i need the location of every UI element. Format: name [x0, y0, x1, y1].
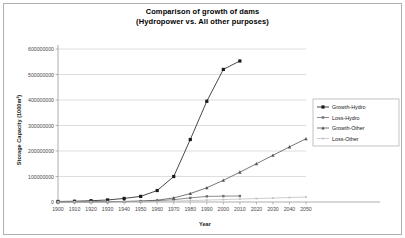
legend-label: Growth-Other [332, 125, 365, 131]
chart-container: Comparison of growth of dams (Hydropower… [0, 0, 405, 238]
y-tick-label: 100000000 [28, 174, 54, 180]
series-growth-other [56, 137, 307, 203]
data-point [107, 201, 109, 203]
data-point [305, 196, 307, 198]
series-line [58, 61, 240, 202]
data-point [57, 201, 59, 203]
data-point [271, 154, 274, 157]
data-point [321, 105, 324, 108]
data-point [156, 201, 158, 203]
plot-area: 0100000000200000000300000000400000000500… [0, 0, 405, 238]
data-point [239, 198, 241, 200]
x-axis-title: Year [199, 221, 212, 227]
x-tick-label: 1920 [85, 206, 97, 212]
data-point [206, 199, 208, 201]
y-tick-label: 500000000 [28, 72, 54, 78]
data-point [173, 200, 175, 202]
y-tick-label: 300000000 [28, 123, 54, 129]
x-tick-label: 1950 [135, 206, 147, 212]
x-tick-label: 2000 [218, 206, 230, 212]
x-tick-labels: 1900191019201930194019501960197019801990… [52, 202, 312, 212]
data-point [289, 197, 291, 199]
data-point [322, 138, 324, 140]
data-point [222, 199, 224, 201]
data-point [238, 170, 241, 173]
y-tick-label: 600000000 [28, 46, 54, 52]
x-tick-label: 1930 [102, 206, 114, 212]
data-point [74, 201, 76, 203]
y-tick-label: 200000000 [28, 148, 54, 154]
x-tick-label: 2050 [300, 206, 312, 212]
legend-label: Growth-Hydro [332, 104, 366, 110]
data-point [189, 138, 192, 141]
x-tick-label: 1990 [201, 206, 213, 212]
x-tick-label: 2040 [284, 206, 296, 212]
data-point [90, 201, 92, 203]
chart-legend: Growth-HydroLoss-HydroGrowth-OtherLoss-O… [313, 99, 399, 146]
data-point [222, 195, 224, 197]
x-tick-label: 2030 [267, 206, 279, 212]
legend-label: Loss-Hydro [332, 115, 360, 121]
series-line [58, 197, 306, 202]
x-tick-label: 1980 [184, 206, 196, 212]
data-point [272, 197, 274, 199]
series-line [58, 139, 306, 202]
y-tick-label: 400000000 [28, 97, 54, 103]
x-tick-label: 2010 [234, 206, 246, 212]
y-tick-label: 0 [51, 199, 54, 205]
data-point [189, 197, 191, 199]
gridlines [56, 49, 307, 202]
x-tick-label: 1910 [69, 206, 81, 212]
x-tick-label: 1940 [118, 206, 130, 212]
data-point [139, 195, 142, 198]
data-point [206, 195, 208, 197]
legend-label: Loss-Other [332, 136, 359, 142]
x-tick-label: 2020 [251, 206, 263, 212]
data-point [140, 201, 142, 203]
x-tick-label: 1960 [151, 206, 163, 212]
data-point [123, 197, 126, 200]
data-point [304, 137, 307, 140]
data-point [222, 68, 225, 71]
y-tick-labels: 0100000000200000000300000000400000000500… [28, 46, 54, 205]
data-point [238, 59, 241, 62]
y-axis-title: Storage Capacity (1000m³) [16, 95, 22, 165]
data-point [239, 195, 241, 197]
x-tick-label: 1970 [168, 206, 180, 212]
data-point [255, 162, 258, 165]
data-point [156, 189, 159, 192]
data-point [123, 201, 125, 203]
data-point [322, 116, 324, 118]
x-tick-label: 1900 [52, 206, 64, 212]
data-point [172, 175, 175, 178]
data-point [256, 198, 258, 200]
data-series-group [56, 59, 307, 203]
series-growth-hydro [56, 59, 241, 203]
data-point [205, 100, 208, 103]
data-point [189, 200, 191, 202]
